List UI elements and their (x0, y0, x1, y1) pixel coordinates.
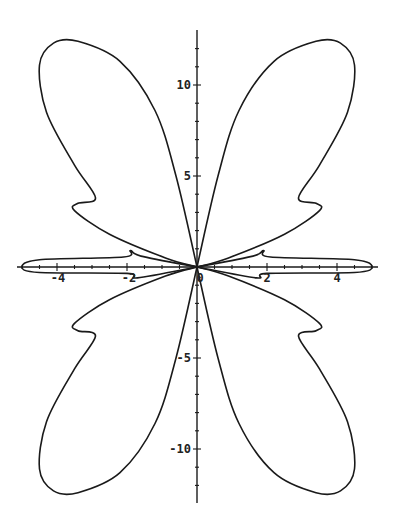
x-tick-label-2: 2 (263, 271, 270, 285)
curve-lobe-upper-left (39, 40, 197, 267)
y-tick-label-neg10: -10 (169, 442, 191, 456)
curve-lobe-lower-left (39, 267, 197, 494)
y-tick-label-neg5: -5 (177, 351, 191, 365)
x-tick-label-neg4: -4 (51, 271, 65, 285)
polar-curve-plot: 10 5 -5 -10 -4 -2 0 2 4 (0, 0, 401, 523)
curve-lobe-upper-right (197, 40, 355, 267)
x-tick-label-neg2: -2 (122, 271, 136, 285)
x-tick-label-0: 0 (196, 271, 203, 285)
y-tick-label-5: 5 (184, 169, 191, 183)
axes (17, 30, 378, 503)
y-tick-label-10: 10 (177, 78, 191, 92)
x-tick-label-4: 4 (333, 271, 340, 285)
curve-lobe-lower-right (197, 267, 355, 494)
